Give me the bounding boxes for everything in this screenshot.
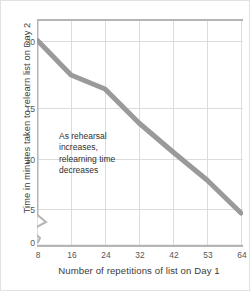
y-tick-label-15: 15 xyxy=(13,105,35,114)
y-tick-label-20: 20 xyxy=(13,38,35,47)
annotation-line-2: increases, xyxy=(59,142,143,153)
x-axis-tick-labels: 8 16 24 32 42 53 64 xyxy=(1,251,250,265)
plot-area: As rehearsal increases, relearning time … xyxy=(37,19,243,247)
x-axis-title: Number of repetitions of list on Day 1 xyxy=(31,265,247,276)
x-tick-label-53: 53 xyxy=(196,251,220,259)
y-tick-label-5: 5 xyxy=(13,206,35,215)
annotation-line-1: As rehearsal xyxy=(59,131,143,142)
annotation-line-4: decreases xyxy=(59,165,143,176)
x-tick-label-16: 16 xyxy=(60,251,84,259)
x-tick-label-42: 42 xyxy=(162,251,186,259)
chart-figure: Time in minutes taken to relearn list on… xyxy=(0,0,250,291)
y-tick-label-0: 0 xyxy=(13,239,35,248)
y-axis-tick-labels: 0 5 10 15 20 xyxy=(11,1,35,291)
y-tick-label-10: 10 xyxy=(13,156,35,165)
x-tick-label-32: 32 xyxy=(128,251,152,259)
annotation-line-3: relearning time xyxy=(59,154,143,165)
x-tick-label-24: 24 xyxy=(94,251,118,259)
x-tick-label-64: 64 xyxy=(230,251,250,259)
chart-annotation: As rehearsal increases, relearning time … xyxy=(59,131,143,177)
x-tick-label-8: 8 xyxy=(26,251,50,259)
